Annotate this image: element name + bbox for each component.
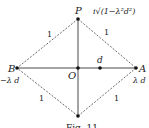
point-a	[134, 66, 138, 70]
figure-caption: Fig. 11	[66, 123, 98, 128]
edge-bottom-a	[78, 68, 136, 116]
label-o: O	[68, 70, 76, 81]
rhombus-diagram: P i√(1−λ²d²) B −λ d A λ d O d 1 1 1 1 Fi…	[0, 0, 149, 128]
edge-label-top-left: 1	[47, 30, 52, 39]
edge-label-top-right: 1	[104, 28, 109, 37]
point-o	[76, 66, 80, 70]
label-p-expr: i√(1−λ²d²)	[93, 7, 135, 16]
point-p	[76, 17, 80, 21]
label-b-expr: −λ d	[0, 76, 19, 85]
label-a: A	[138, 63, 146, 74]
label-p: P	[74, 5, 82, 16]
edge-label-bottom-right: 1	[114, 94, 119, 103]
point-d	[98, 66, 102, 70]
edge-p-a	[78, 19, 136, 68]
edge-p-b	[17, 19, 78, 68]
label-d: d	[97, 55, 103, 65]
point-b	[15, 66, 19, 70]
label-b: B	[7, 63, 15, 74]
edge-label-bottom-left: 1	[39, 94, 44, 103]
point-bottom	[76, 114, 80, 118]
label-a-expr: λ d	[132, 76, 146, 85]
